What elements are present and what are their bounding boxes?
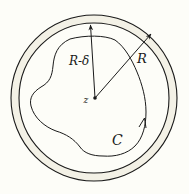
label-z: z (83, 95, 89, 105)
label-contour: C (112, 132, 123, 148)
label-outer-radius: R (136, 51, 147, 66)
annulus-diagram: z R-δ R C (0, 0, 189, 194)
label-inner-radius: R-δ (68, 54, 89, 68)
center-point-z (93, 96, 97, 100)
